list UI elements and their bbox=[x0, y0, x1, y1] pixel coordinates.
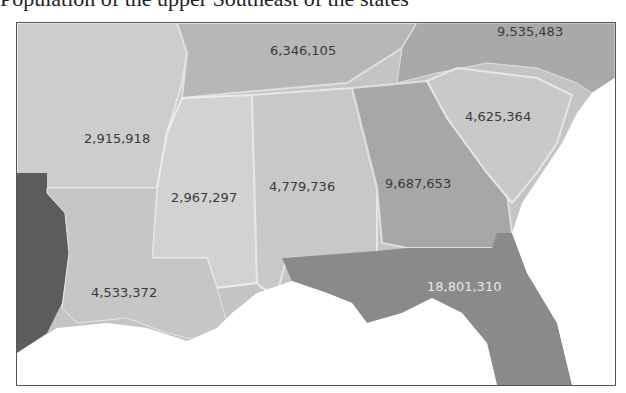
map-frame: 2,915,918 6,346,105 9,535,483 4,625,364 … bbox=[16, 22, 616, 386]
label-north-carolina: 9,535,483 bbox=[497, 24, 563, 39]
label-georgia: 9,687,653 bbox=[385, 176, 451, 191]
label-alabama: 4,779,736 bbox=[269, 179, 335, 194]
label-florida: 18,801,310 bbox=[427, 279, 501, 294]
label-mississippi: 2,967,297 bbox=[171, 190, 237, 205]
label-louisiana: 4,533,372 bbox=[91, 285, 157, 300]
label-tennessee: 6,346,105 bbox=[270, 43, 336, 58]
map-svg bbox=[17, 23, 615, 385]
label-arkansas: 2,915,918 bbox=[84, 131, 150, 146]
caption: Population of the upper Southeast of the… bbox=[0, 0, 626, 12]
label-south-carolina: 4,625,364 bbox=[465, 109, 531, 124]
